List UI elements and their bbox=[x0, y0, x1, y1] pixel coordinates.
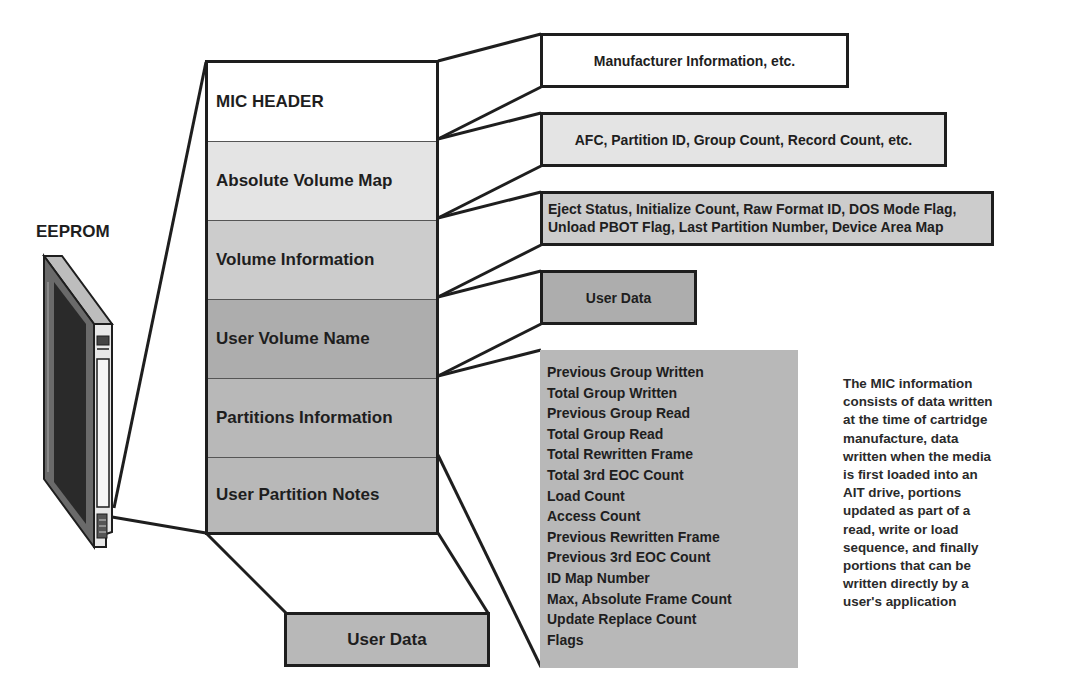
segment-mic-header: MIC HEADER bbox=[208, 63, 436, 142]
partition-field: Previous Rewritten Frame bbox=[547, 527, 798, 548]
segment-label: User Partition Notes bbox=[216, 485, 379, 505]
segment-volume-information: Volume Information bbox=[208, 221, 436, 300]
detail-text: User Data bbox=[347, 631, 426, 649]
partition-field: Load Count bbox=[547, 486, 798, 507]
note-line: read, write or load bbox=[843, 521, 1018, 539]
segment-user-volume-name: User Volume Name bbox=[208, 300, 436, 379]
detail-line: Unload PBOT Flag, Last Partition Number,… bbox=[548, 218, 991, 236]
segment-label: Absolute Volume Map bbox=[216, 171, 392, 191]
note-line: updated as part of a bbox=[843, 502, 1018, 520]
note-line: written directly by a bbox=[843, 575, 1018, 593]
partition-field: Flags bbox=[547, 630, 798, 651]
partition-field: Total Group Read bbox=[547, 424, 798, 445]
detail-absolute-volume-map: AFC, Partition ID, Group Count, Record C… bbox=[540, 112, 947, 167]
note-line: AIT drive, portions bbox=[843, 484, 1018, 502]
segment-label: Volume Information bbox=[216, 250, 374, 270]
note-line: user's application bbox=[843, 593, 1018, 611]
note-line: consists of data written bbox=[843, 393, 1018, 411]
segment-user-partition-notes: User Partition Notes bbox=[208, 458, 436, 532]
note-line: The MIC information bbox=[843, 375, 1018, 393]
partition-field: Access Count bbox=[547, 506, 798, 527]
detail-mic-header: Manufacturer Information, etc. bbox=[540, 33, 849, 88]
partition-field: Total Group Written bbox=[547, 383, 798, 404]
mic-description-note: The MIC information consists of data wri… bbox=[843, 375, 1018, 612]
partition-field: ID Map Number bbox=[547, 568, 798, 589]
partition-field: Previous Group Read bbox=[547, 403, 798, 424]
detail-partitions-information: Previous Group Written Total Group Writt… bbox=[540, 350, 798, 668]
note-line: at the time of cartridge bbox=[843, 411, 1018, 429]
connector-chip-bottom bbox=[112, 517, 206, 533]
segment-label: User Volume Name bbox=[216, 329, 370, 349]
note-line: sequence, and finally bbox=[843, 539, 1018, 557]
detail-volume-information: Eject Status, Initialize Count, Raw Form… bbox=[540, 191, 994, 246]
detail-line: Eject Status, Initialize Count, Raw Form… bbox=[548, 200, 991, 218]
connector-chip-top bbox=[114, 62, 206, 508]
cartridge-icon bbox=[40, 252, 120, 552]
note-line: is first loaded into an bbox=[843, 466, 1018, 484]
mic-memory-stack: MIC HEADER Absolute Volume Map Volume In… bbox=[205, 60, 439, 535]
segment-label: MIC HEADER bbox=[216, 92, 324, 112]
segment-absolute-volume-map: Absolute Volume Map bbox=[208, 142, 436, 221]
partition-field: Update Replace Count bbox=[547, 609, 798, 630]
partition-field: Total Rewritten Frame bbox=[547, 444, 798, 465]
segment-label: Partitions Information bbox=[216, 408, 393, 428]
partition-field: Max, Absolute Frame Count bbox=[547, 589, 798, 610]
detail-text: AFC, Partition ID, Group Count, Record C… bbox=[575, 131, 913, 149]
detail-user-partition-notes: User Data bbox=[284, 612, 490, 667]
detail-text: Manufacturer Information, etc. bbox=[594, 52, 795, 70]
eeprom-label: EEPROM bbox=[36, 222, 110, 242]
detail-text: User Data bbox=[586, 289, 651, 307]
note-line: written when the media bbox=[843, 448, 1018, 466]
partition-field: Previous Group Written bbox=[547, 362, 798, 383]
note-line: portions that can be bbox=[843, 557, 1018, 575]
detail-user-volume-name: User Data bbox=[540, 270, 697, 325]
partition-field: Previous 3rd EOC Count bbox=[547, 547, 798, 568]
segment-partitions-information: Partitions Information bbox=[208, 379, 436, 458]
note-line: manufacture, data bbox=[843, 430, 1018, 448]
partition-field: Total 3rd EOC Count bbox=[547, 465, 798, 486]
